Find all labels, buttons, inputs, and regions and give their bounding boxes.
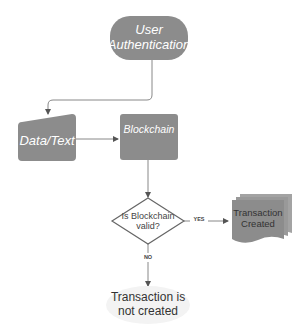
label-line: valid? — [136, 221, 160, 231]
edge-label-no: NO — [140, 253, 156, 262]
label-transaction-created: Transaction Created — [232, 202, 284, 236]
label-line: not created — [118, 305, 178, 319]
label-line: User — [135, 23, 162, 38]
label-line: Authentication — [108, 38, 190, 53]
connector-auth-to-data — [48, 60, 152, 114]
label-user-authentication: User Authentication — [104, 16, 194, 60]
label-line: Created — [241, 219, 275, 230]
label-data-text: Data/Text — [16, 122, 78, 160]
label-decision: Is Blockchain valid? — [112, 206, 184, 236]
label-line: Transaction is — [111, 291, 185, 305]
edge-label-yes: YES — [190, 214, 208, 224]
label-blockchain: Blockchain — [118, 114, 180, 144]
label-transaction-not-created: Transaction is not created — [104, 289, 192, 321]
label-line: Is Blockchain — [121, 211, 174, 221]
